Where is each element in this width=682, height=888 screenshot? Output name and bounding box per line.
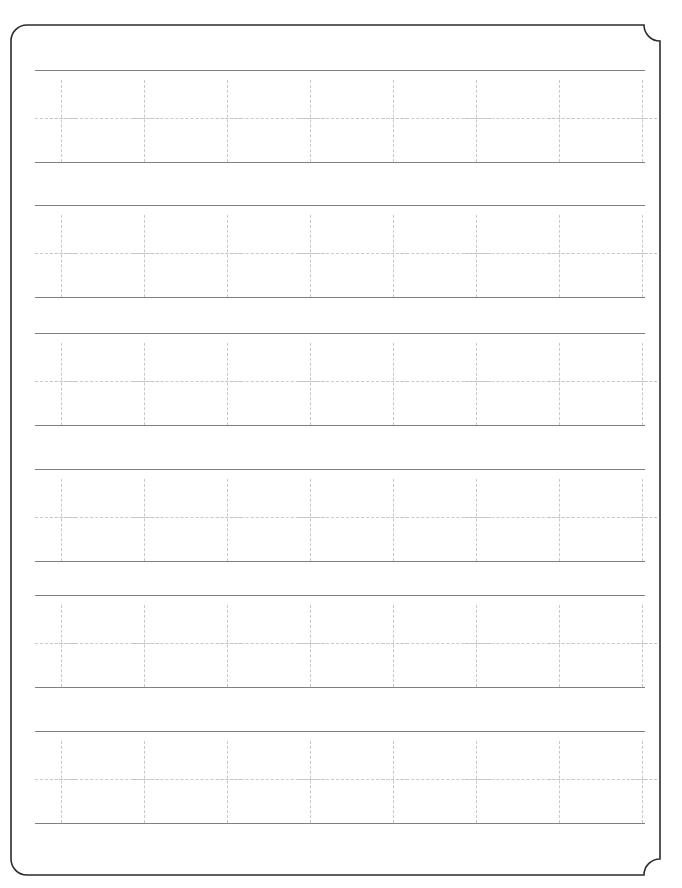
glyph-stem-vertical	[642, 215, 643, 297]
row-baseline	[35, 425, 645, 426]
trace-glyph-letter-t	[546, 70, 586, 162]
glyph-crossbar-horizontal	[50, 643, 76, 644]
glyph-crossbar-horizontal	[216, 643, 242, 644]
trace-glyph-letter-t	[546, 731, 586, 823]
glyph-crossbar-horizontal	[548, 381, 574, 382]
row-baseline	[35, 297, 645, 298]
glyph-stem-vertical	[144, 741, 145, 823]
glyph-crossbar-horizontal	[465, 643, 491, 644]
glyph-track	[35, 595, 645, 687]
glyph-stem-vertical	[227, 605, 228, 687]
glyph-crossbar-horizontal	[133, 118, 159, 119]
glyph-stem-vertical	[227, 343, 228, 425]
trace-glyph-letter-t	[214, 70, 254, 162]
glyph-stem-vertical	[559, 605, 560, 687]
glyph-crossbar-horizontal	[133, 381, 159, 382]
glyph-crossbar-horizontal	[50, 118, 76, 119]
trace-glyph-letter-t	[48, 595, 88, 687]
trace-glyph-letter-t	[214, 469, 254, 561]
glyph-stem-vertical	[476, 479, 477, 561]
trace-glyph-letter-t	[214, 333, 254, 425]
trace-glyph-letter-t	[629, 469, 669, 561]
trace-glyph-letter-t	[48, 205, 88, 297]
glyph-track	[35, 469, 645, 561]
glyph-crossbar-horizontal	[216, 118, 242, 119]
glyph-crossbar-horizontal	[133, 253, 159, 254]
glyph-stem-vertical	[476, 215, 477, 297]
glyph-stem-vertical	[310, 343, 311, 425]
glyph-stem-vertical	[559, 741, 560, 823]
glyph-crossbar-horizontal	[216, 381, 242, 382]
trace-glyph-letter-t	[48, 333, 88, 425]
trace-glyph-letter-t	[214, 595, 254, 687]
trace-glyph-letter-t	[131, 333, 171, 425]
glyph-stem-vertical	[61, 80, 62, 162]
trace-glyph-letter-t	[546, 595, 586, 687]
row-baseline	[35, 561, 645, 562]
trace-glyph-letter-t	[463, 595, 503, 687]
glyph-stem-vertical	[310, 479, 311, 561]
trace-glyph-letter-t	[380, 205, 420, 297]
trace-glyph-letter-t	[131, 731, 171, 823]
glyph-stem-vertical	[476, 741, 477, 823]
glyph-crossbar-horizontal	[299, 517, 325, 518]
glyph-stem-vertical	[61, 605, 62, 687]
glyph-stem-vertical	[61, 215, 62, 297]
trace-glyph-letter-t	[297, 70, 337, 162]
glyph-crossbar-horizontal	[216, 253, 242, 254]
glyph-crossbar-horizontal	[50, 381, 76, 382]
glyph-crossbar-horizontal	[631, 779, 657, 780]
glyph-stem-vertical	[642, 479, 643, 561]
trace-glyph-letter-t	[297, 333, 337, 425]
trace-glyph-letter-t	[297, 731, 337, 823]
glyph-crossbar-horizontal	[50, 779, 76, 780]
glyph-crossbar-horizontal	[465, 517, 491, 518]
glyph-stem-vertical	[310, 605, 311, 687]
glyph-stem-vertical	[393, 80, 394, 162]
glyph-crossbar-horizontal	[299, 381, 325, 382]
trace-glyph-letter-t	[131, 70, 171, 162]
worksheet-page: Letter Tracing Practice Worksheet	[0, 0, 682, 888]
trace-glyph-letter-t	[297, 469, 337, 561]
row-baseline	[35, 823, 645, 824]
glyph-stem-vertical	[227, 80, 228, 162]
trace-glyph-letter-t	[463, 205, 503, 297]
glyph-stem-vertical	[393, 605, 394, 687]
glyph-stem-vertical	[393, 343, 394, 425]
glyph-crossbar-horizontal	[631, 253, 657, 254]
trace-glyph-letter-t	[48, 70, 88, 162]
glyph-crossbar-horizontal	[548, 643, 574, 644]
glyph-crossbar-horizontal	[216, 517, 242, 518]
glyph-stem-vertical	[144, 479, 145, 561]
glyph-crossbar-horizontal	[299, 118, 325, 119]
trace-glyph-letter-t	[131, 205, 171, 297]
trace-glyph-letter-t	[629, 595, 669, 687]
trace-glyph-letter-t	[131, 469, 171, 561]
glyph-stem-vertical	[393, 479, 394, 561]
glyph-crossbar-horizontal	[382, 118, 408, 119]
trace-glyph-letter-t	[463, 70, 503, 162]
glyph-track	[35, 70, 645, 162]
trace-glyph-letter-t	[48, 731, 88, 823]
glyph-crossbar-horizontal	[382, 381, 408, 382]
glyph-crossbar-horizontal	[465, 253, 491, 254]
glyph-stem-vertical	[559, 215, 560, 297]
glyph-stem-vertical	[642, 80, 643, 162]
trace-glyph-letter-t	[546, 333, 586, 425]
trace-glyph-letter-t	[629, 70, 669, 162]
glyph-crossbar-horizontal	[50, 253, 76, 254]
trace-glyph-letter-t	[297, 205, 337, 297]
glyph-crossbar-horizontal	[216, 779, 242, 780]
glyph-crossbar-horizontal	[133, 779, 159, 780]
trace-glyph-letter-t	[629, 205, 669, 297]
glyph-stem-vertical	[642, 605, 643, 687]
glyph-stem-vertical	[642, 343, 643, 425]
trace-glyph-letter-t	[463, 469, 503, 561]
glyph-stem-vertical	[310, 741, 311, 823]
glyph-stem-vertical	[227, 741, 228, 823]
trace-glyph-letter-t	[380, 333, 420, 425]
glyph-crossbar-horizontal	[465, 779, 491, 780]
trace-glyph-letter-t	[48, 469, 88, 561]
glyph-crossbar-horizontal	[299, 253, 325, 254]
glyph-crossbar-horizontal	[631, 118, 657, 119]
